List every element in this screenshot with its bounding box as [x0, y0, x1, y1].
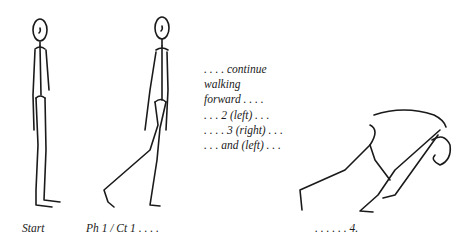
- caption-phase1: Ph 1 / Ct 1 . . . .: [86, 222, 159, 234]
- note-line: walking: [204, 77, 283, 92]
- movement-notes: . . . . continue walking forward . . . .…: [204, 62, 283, 153]
- note-line: . . . 2 (left) . . .: [204, 108, 283, 123]
- caption-start: Start: [22, 222, 44, 234]
- bending-figure: [300, 110, 450, 212]
- walking-figure: [104, 17, 169, 207]
- standing-figure: [33, 19, 60, 207]
- note-line: . . . . continue: [204, 62, 283, 77]
- note-line: forward . . . .: [204, 92, 283, 107]
- note-line: . . . and (left) . . .: [204, 138, 283, 153]
- caption-count4: . . . . . . 4.: [315, 222, 358, 234]
- note-line: . . . . 3 (right) . . .: [204, 123, 283, 138]
